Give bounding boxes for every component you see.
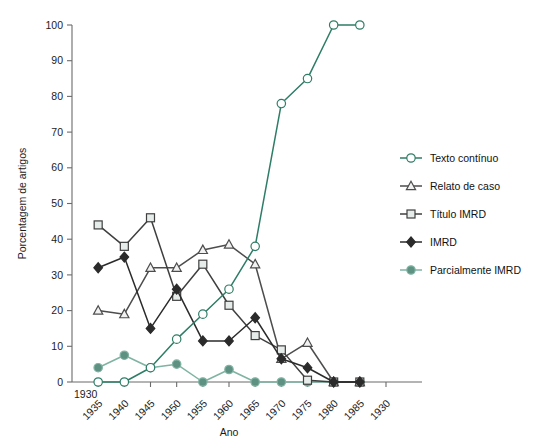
data-point-marker <box>120 351 128 359</box>
legend-label: Título IMRD <box>430 208 486 220</box>
series-1 <box>94 21 364 386</box>
series-2 <box>94 240 365 386</box>
data-point-marker <box>199 310 207 318</box>
data-point-marker <box>94 306 103 314</box>
y-tick-label: 100 <box>45 19 63 31</box>
data-point-marker <box>251 242 259 250</box>
data-point-marker <box>329 21 337 29</box>
x-axis-ticks: 1930193519401945195019551960196519701975… <box>74 382 393 422</box>
legend-item-3[interactable]: Título IMRD <box>400 208 486 220</box>
legend-item-1[interactable]: Texto contínuo <box>400 152 498 164</box>
data-point-marker <box>251 332 259 340</box>
data-point-marker <box>225 365 233 373</box>
x-axis-title: Ano <box>220 426 239 438</box>
legend-label: Texto contínuo <box>430 152 498 164</box>
data-point-marker <box>94 221 102 229</box>
data-point-marker <box>94 378 102 386</box>
data-point-marker <box>199 260 207 268</box>
data-point-marker <box>199 336 208 346</box>
line-chart: 0102030405060708090100193019351940194519… <box>0 0 545 443</box>
data-point-marker <box>172 360 180 368</box>
x-tick-label: 1935 <box>80 397 105 422</box>
legend-item-5[interactable]: Parcialmente IMRD <box>400 264 521 276</box>
data-point-marker <box>251 259 260 267</box>
legend-item-2[interactable]: Relato de caso <box>400 180 500 192</box>
x-tick-label: 1985 <box>341 397 366 422</box>
axes <box>72 25 422 382</box>
x-tick-label: 1930 <box>367 397 392 422</box>
data-point-marker <box>94 263 103 273</box>
y-tick-label: 10 <box>51 340 63 352</box>
x-tick-label: 1950 <box>158 397 183 422</box>
x-tick-label: 1965 <box>237 397 262 422</box>
y-axis-ticks: 0102030405060708090100 <box>45 19 72 388</box>
legend-label: IMRD <box>430 236 457 248</box>
data-point-marker <box>225 285 233 293</box>
y-tick-label: 50 <box>51 197 63 209</box>
data-point-marker <box>407 266 415 274</box>
data-point-marker <box>407 210 415 218</box>
data-point-marker <box>147 214 155 222</box>
y-tick-label: 80 <box>51 90 63 102</box>
y-tick-label: 0 <box>57 376 63 388</box>
y-axis-title: Porcentagem de artigos <box>16 148 28 259</box>
y-tick-label: 20 <box>51 304 63 316</box>
x-tick-label: 1955 <box>184 397 209 422</box>
data-point-marker <box>407 154 415 162</box>
series-line <box>98 25 360 382</box>
x-tick-label: 1945 <box>132 397 157 422</box>
x-tick-label: 1970 <box>263 397 288 422</box>
data-point-marker <box>303 363 312 373</box>
y-tick-label: 60 <box>51 161 63 173</box>
data-point-marker <box>120 252 129 262</box>
data-point-marker <box>172 335 180 343</box>
legend: Texto contínuoRelato de casoTítulo IMRDI… <box>400 152 521 276</box>
chart-figure: 0102030405060708090100193019351940194519… <box>0 0 545 443</box>
data-point-marker <box>251 378 259 386</box>
data-point-marker <box>94 364 102 372</box>
data-point-marker <box>407 237 416 247</box>
data-point-marker <box>120 242 128 250</box>
legend-label: Parcialmente IMRD <box>430 264 521 276</box>
x-tick-label: 1980 <box>315 397 340 422</box>
data-point-marker <box>304 376 312 384</box>
data-point-marker <box>303 338 312 346</box>
x-tick-label: 1960 <box>210 397 235 422</box>
y-tick-label: 30 <box>51 269 63 281</box>
data-point-marker <box>277 346 285 354</box>
data-point-marker <box>277 99 285 107</box>
x-tick-label: 1940 <box>106 397 131 422</box>
data-point-marker <box>199 378 207 386</box>
data-point-marker <box>224 240 233 248</box>
x-tick-label: 1975 <box>289 397 314 422</box>
legend-label: Relato de caso <box>430 180 500 192</box>
legend-item-4[interactable]: IMRD <box>400 236 457 248</box>
y-tick-label: 90 <box>51 54 63 66</box>
data-point-marker <box>356 21 364 29</box>
y-tick-label: 70 <box>51 126 63 138</box>
data-point-marker <box>225 301 233 309</box>
data-point-marker <box>277 378 285 386</box>
y-tick-label: 40 <box>51 233 63 245</box>
data-point-marker <box>303 74 311 82</box>
data-point-marker <box>146 364 154 372</box>
data-point-marker <box>120 378 128 386</box>
